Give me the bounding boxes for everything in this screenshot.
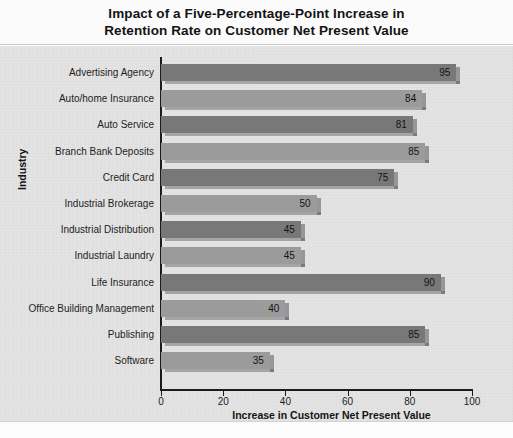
category-label: Software [4, 352, 154, 369]
category-label: Industrial Laundry [4, 247, 154, 264]
bar-value-label: 40 [243, 302, 279, 315]
bar-row[interactable]: 35 [161, 352, 270, 369]
bar-row[interactable]: 84 [161, 90, 422, 107]
category-label: Industrial Distribution [4, 221, 154, 238]
x-axis-tick-label: 20 [203, 396, 243, 407]
bar[interactable] [161, 64, 456, 81]
bar-row[interactable]: 90 [161, 274, 441, 291]
category-label: Auto Service [4, 116, 154, 133]
x-axis-tick-label: 80 [390, 396, 430, 407]
bar-row[interactable]: 81 [161, 116, 413, 133]
bar-row[interactable]: 95 [161, 64, 456, 81]
bar-value-label: 90 [399, 276, 435, 289]
bar-row[interactable]: 40 [161, 300, 285, 317]
category-label: Credit Card [4, 169, 154, 186]
bar-value-label: 45 [259, 223, 295, 236]
x-axis-tick-label: 100 [452, 396, 492, 407]
category-label: Advertising Agency [4, 64, 154, 81]
x-axis-line [160, 389, 473, 391]
bar-row[interactable]: 85 [161, 326, 425, 343]
x-axis-tick-label: 40 [265, 396, 305, 407]
bar-value-label: 50 [275, 197, 311, 210]
bar-value-label: 35 [228, 354, 264, 367]
bar-row[interactable]: 45 [161, 247, 301, 264]
bar-value-label: 45 [259, 249, 295, 262]
bar-row[interactable]: 50 [161, 195, 317, 212]
x-axis-title: Increase in Customer Net Present Value [0, 409, 513, 421]
category-label: Industrial Brokerage [4, 195, 154, 212]
bar-value-label: 95 [414, 66, 450, 79]
category-label: Branch Bank Deposits [4, 143, 154, 160]
chart-title-line-2: Retention Rate on Customer Net Present V… [0, 22, 513, 39]
bar-value-label: 85 [383, 145, 419, 158]
bar-row[interactable]: 45 [161, 221, 301, 238]
chart-title-line-1: Impact of a Five-Percentage-Point Increa… [108, 6, 404, 21]
category-label: Life Insurance [4, 274, 154, 291]
bar-value-label: 75 [352, 171, 388, 184]
x-axis-tick-label: 60 [328, 396, 368, 407]
chart-figure: Impact of a Five-Percentage-Point Increa… [0, 0, 513, 438]
category-label: Office Building Management [4, 300, 154, 317]
category-label: Auto/home Insurance [4, 90, 154, 107]
footer-band [0, 421, 513, 438]
bar-value-label: 81 [371, 118, 407, 131]
bar-row[interactable]: 85 [161, 143, 425, 160]
x-axis-tick-label: 0 [141, 396, 181, 407]
bar-value-label: 85 [383, 328, 419, 341]
category-label: Publishing [4, 326, 154, 343]
chart-title: Impact of a Five-Percentage-Point Increa… [0, 5, 513, 39]
bar-value-label: 84 [380, 92, 416, 105]
bar-row[interactable]: 75 [161, 169, 394, 186]
